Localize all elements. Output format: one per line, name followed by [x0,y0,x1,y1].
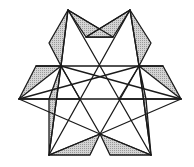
shaded-triangle [130,10,151,66]
lattice-line [139,66,151,155]
star-net-diagram [0,0,194,167]
lattice-line [100,99,181,134]
lattice-line [19,99,100,134]
